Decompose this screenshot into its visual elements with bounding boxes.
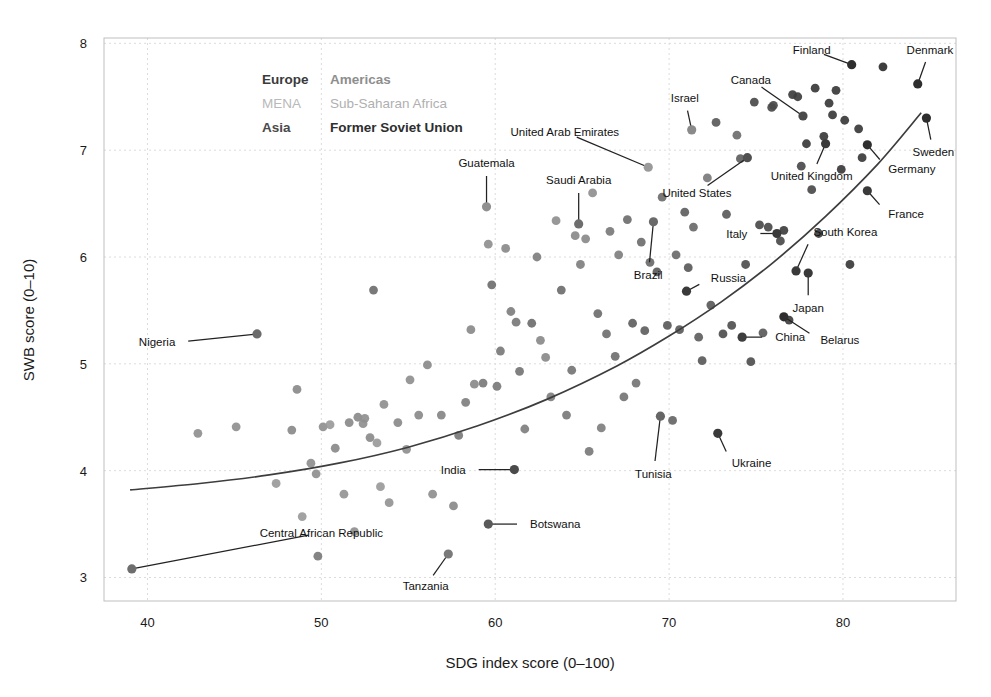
data-point — [232, 422, 241, 431]
x-tick-label: 80 — [836, 615, 850, 630]
point-label: France — [888, 208, 924, 220]
scatter-chart-figure: 4050607080 345678 Central African Republ… — [0, 0, 991, 697]
data-point — [298, 512, 307, 521]
point-label: Tunisia — [635, 468, 672, 480]
point-label: Guatemala — [458, 157, 515, 169]
point-label: Japan — [793, 302, 824, 314]
data-point — [680, 208, 689, 217]
data-point-labeled — [510, 465, 519, 474]
data-point — [811, 84, 820, 93]
label-leader-line — [132, 535, 309, 569]
point-label: Central African Republic — [260, 527, 384, 539]
legend-group: EuropeAmericasMENASub-Saharan AfricaAsia… — [262, 72, 463, 135]
data-point — [727, 321, 736, 330]
data-point — [484, 240, 493, 249]
y-tick-label: 3 — [80, 570, 87, 585]
data-point — [602, 330, 611, 339]
data-point — [385, 498, 394, 507]
label-leader-line — [708, 158, 748, 186]
data-point-labeled — [644, 163, 653, 172]
data-point-labeled — [804, 268, 813, 277]
data-point-labeled — [682, 287, 691, 296]
data-point — [423, 361, 432, 370]
data-point — [307, 459, 316, 468]
point-label: Saudi Arabia — [546, 174, 612, 186]
data-point — [406, 375, 415, 384]
data-point-labeled — [791, 266, 800, 275]
data-point — [369, 286, 378, 295]
label-leader-line — [650, 222, 654, 262]
data-point-labeled — [252, 329, 261, 338]
data-point — [619, 393, 628, 402]
data-point — [331, 444, 340, 453]
data-point — [640, 326, 649, 335]
data-point — [722, 210, 731, 219]
chart-canvas: 4050607080 345678 Central African Republ… — [0, 0, 991, 697]
data-point — [533, 253, 542, 262]
label-leader-line — [655, 416, 660, 461]
legend-entry-europe: Europe — [262, 72, 309, 87]
data-point — [496, 347, 505, 356]
data-point — [428, 490, 437, 499]
data-point — [846, 260, 855, 269]
data-point-labeled — [863, 186, 872, 195]
data-point — [571, 231, 580, 240]
data-point — [719, 330, 728, 339]
data-point — [840, 116, 849, 125]
y-tick-label: 6 — [80, 250, 87, 265]
data-point — [272, 479, 281, 488]
data-point — [576, 260, 585, 269]
data-point — [581, 234, 590, 243]
data-point — [694, 333, 703, 342]
x-tick-label: 40 — [140, 615, 154, 630]
data-point — [493, 382, 502, 391]
data-point — [755, 221, 764, 230]
data-point — [807, 185, 816, 194]
point-label: Canada — [731, 74, 772, 86]
data-point — [623, 215, 632, 224]
data-point — [380, 400, 389, 409]
data-point — [552, 216, 561, 225]
data-point — [802, 139, 811, 148]
data-point — [588, 189, 597, 198]
data-point-labeled — [127, 564, 136, 573]
data-point — [712, 118, 721, 127]
legend-entry-mena: MENA — [262, 96, 301, 111]
data-point — [614, 250, 623, 259]
data-point — [611, 352, 620, 361]
data-point-labeled — [656, 412, 665, 421]
data-point-labeled — [649, 217, 658, 226]
data-point — [828, 111, 837, 120]
data-point — [393, 418, 402, 427]
data-point — [769, 101, 778, 110]
data-point-labeled — [713, 429, 722, 438]
data-point — [698, 356, 707, 365]
data-point — [825, 99, 834, 108]
y-axis-ticks: 345678 — [80, 36, 87, 585]
data-point — [597, 424, 606, 433]
x-tick-label: 50 — [314, 615, 328, 630]
point-label: Brazil — [634, 269, 663, 281]
data-point — [733, 131, 742, 140]
x-tick-label: 70 — [662, 615, 676, 630]
data-point — [793, 92, 802, 101]
data-point — [689, 223, 698, 232]
point-label: Russia — [711, 272, 747, 284]
data-point — [668, 416, 677, 425]
data-point — [479, 379, 488, 388]
legend-entry-sub-saharan-africa: Sub-Saharan Africa — [330, 96, 448, 111]
data-point — [858, 153, 867, 162]
data-point — [193, 429, 202, 438]
x-axis-ticks: 4050607080 — [140, 615, 850, 630]
data-point — [593, 309, 602, 318]
point-label: United Kingdom — [771, 170, 853, 182]
data-point-labeled — [821, 139, 830, 148]
data-point-labeled — [847, 60, 856, 69]
data-point — [293, 385, 302, 394]
data-point — [536, 336, 545, 345]
data-point — [628, 319, 637, 328]
data-point — [501, 244, 510, 253]
y-tick-label: 8 — [80, 36, 87, 51]
data-point — [632, 379, 641, 388]
data-point — [750, 98, 759, 107]
